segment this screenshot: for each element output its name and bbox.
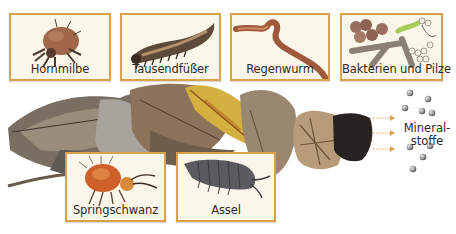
mineral-label-line2: stoffe (401, 135, 453, 148)
arrow-icon (373, 115, 395, 152)
soil-decomposition-diagram: Hornmilbe Tausendfüßer Regenwurm (0, 0, 456, 234)
mineral-release-graphic (0, 0, 456, 234)
mineral-label: Mineral- stoffe (401, 122, 453, 148)
